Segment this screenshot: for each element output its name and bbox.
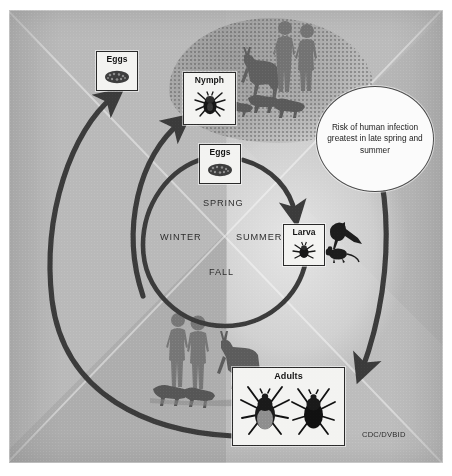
human-couple-silhouette (273, 21, 317, 92)
stage-box-adults[interactable]: Adults (232, 367, 345, 446)
host-group-top (228, 21, 317, 118)
figure-canvas: Eggs Nymph (0, 0, 452, 476)
stage-label-adults: Adults (274, 372, 303, 381)
adult-female-tick-icon (241, 387, 289, 434)
larva-host-silhouettes (325, 222, 362, 263)
inner-cycle-arrow (243, 160, 295, 214)
season-label-summer: SUMMER (236, 232, 282, 242)
tick-egg-mass-icon (97, 64, 137, 91)
stage-label-larva: Larva (292, 228, 315, 237)
risk-callout-text: Risk of human infection greatest in late… (317, 122, 433, 157)
stage-box-eggs-outer[interactable]: Eggs (96, 51, 138, 91)
source-credit: CDC/DVBID (362, 430, 406, 439)
stage-box-eggs-inner[interactable]: Eggs (199, 144, 241, 184)
stage-label-eggs-inner: Eggs (209, 148, 230, 157)
deer-silhouette (241, 47, 279, 102)
season-label-fall: FALL (209, 267, 234, 277)
tick-egg-mass-icon (200, 157, 240, 184)
stage-box-larva[interactable]: Larva (283, 224, 325, 266)
stage-label-eggs-outer: Eggs (106, 55, 127, 64)
small-host-silhouettes (228, 95, 305, 118)
season-label-winter: WINTER (160, 232, 202, 242)
stage-box-nymph[interactable]: Nymph (183, 72, 236, 125)
larva-tick-icon (284, 237, 324, 266)
nymph-tick-icon (184, 85, 235, 125)
adult-ticks-artwork (233, 381, 344, 445)
risk-callout-bubble: Risk of human infection greatest in late… (316, 86, 434, 192)
season-label-spring: SPRING (203, 198, 244, 208)
stage-label-nymph: Nymph (195, 76, 224, 85)
bird-silhouette (330, 222, 362, 249)
nymph-feed-arrow (133, 123, 180, 296)
adult-male-tick-icon (292, 389, 335, 434)
mouse-silhouette (325, 246, 359, 263)
